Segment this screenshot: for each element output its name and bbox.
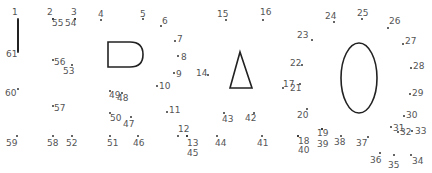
triangle-shape [230, 52, 252, 88]
dot-label: 9 [176, 70, 182, 79]
dot-label: 2 [47, 8, 53, 17]
dot-label: 11 [169, 106, 180, 115]
dot-point [186, 135, 188, 137]
dot-point [262, 19, 264, 21]
dot-label: 56 [54, 58, 65, 67]
dot-label: 26 [389, 17, 400, 26]
oval-shape [341, 43, 377, 113]
dot-label: 47 [123, 120, 134, 129]
dot-point [397, 131, 399, 133]
dot-label: 43 [222, 115, 233, 124]
dot-point [16, 135, 18, 137]
dot-label: 52 [66, 139, 77, 148]
dot-label: 4 [98, 10, 104, 19]
dot-label: 19 [317, 129, 328, 138]
dot-label: 51 [107, 139, 118, 148]
dot-point [387, 27, 389, 29]
dot-point [410, 67, 412, 69]
dot-point [402, 43, 404, 45]
dot-point [409, 93, 411, 95]
dot-label: 27 [405, 37, 416, 46]
dot-label: 24 [325, 12, 336, 21]
dot-label: 22 [290, 59, 301, 68]
dot-label: 44 [215, 139, 226, 148]
dot-label: 53 [63, 67, 74, 76]
dot-label: 36 [370, 156, 381, 165]
dot-label: 50 [110, 114, 121, 123]
dot-label: 7 [177, 35, 183, 44]
dot-point [130, 116, 132, 118]
dot-label: 20 [297, 111, 308, 120]
dot-label: 59 [6, 139, 17, 148]
dot-label: 45 [187, 149, 198, 158]
dot-label: 40 [298, 146, 309, 155]
dot-point [321, 128, 323, 130]
dot-label: 34 [412, 157, 423, 166]
dot-label: 55 [52, 19, 63, 28]
dot-label: 14 [196, 69, 207, 78]
dot-label: 1 [12, 8, 18, 17]
dot-label: 12 [178, 125, 189, 134]
dot-point [71, 135, 73, 137]
dot-label: 16 [260, 8, 271, 17]
dot-label: 30 [406, 111, 417, 120]
dot-point [379, 152, 381, 154]
dot-point [17, 18, 19, 20]
dot-point [166, 111, 168, 113]
dot-point [333, 21, 335, 23]
dot-label: 60 [5, 89, 16, 98]
dot-label: 21 [290, 84, 301, 93]
dot-point [173, 72, 175, 74]
dot-label: 10 [159, 82, 170, 91]
dot-label: 39 [317, 140, 328, 149]
dot-label: 42 [245, 114, 256, 123]
dot-label: 41 [257, 139, 268, 148]
dot-label: 6 [162, 17, 168, 26]
dot-point [297, 135, 299, 137]
dot-point [390, 126, 392, 128]
dot-point [411, 130, 413, 132]
dot-point [177, 135, 179, 137]
dot-label: 46 [133, 139, 144, 148]
dot-point [216, 135, 218, 137]
dot-label: 25 [357, 9, 368, 18]
dot-label: 35 [388, 161, 399, 170]
dot-point [52, 135, 54, 137]
dot-label: 61 [6, 50, 17, 59]
dot-label: 23 [297, 31, 308, 40]
dot-point [100, 19, 102, 21]
dot-label: 58 [47, 139, 58, 148]
dot-point [311, 39, 313, 41]
dot-point [393, 154, 395, 156]
dot-label: 28 [413, 62, 424, 71]
dot-label: 38 [334, 138, 345, 147]
dot-point [17, 88, 19, 90]
dot-point [174, 40, 176, 42]
dot-label: 57 [54, 104, 65, 113]
dot-point [225, 19, 227, 21]
dot-point [261, 135, 263, 137]
dot-label: 37 [356, 139, 367, 148]
dot-label: 8 [181, 53, 187, 62]
dot-label: 15 [217, 10, 228, 19]
d-shape [108, 42, 143, 67]
dot-label: 3 [71, 8, 77, 17]
dot-label: 32 [400, 128, 411, 137]
dot-point [367, 136, 369, 138]
dot-point [361, 18, 363, 20]
dot-point [156, 85, 158, 87]
dot-label: 13 [187, 139, 198, 148]
dot-point [109, 135, 111, 137]
dot-label: 54 [65, 19, 76, 28]
dot-label: 49 [109, 91, 120, 100]
dot-label: 33 [415, 127, 426, 136]
dot-label: 5 [140, 10, 146, 19]
dot-point [177, 55, 179, 57]
dot-label: 29 [412, 89, 423, 98]
dot-point [403, 115, 405, 117]
dot-point [137, 135, 139, 137]
